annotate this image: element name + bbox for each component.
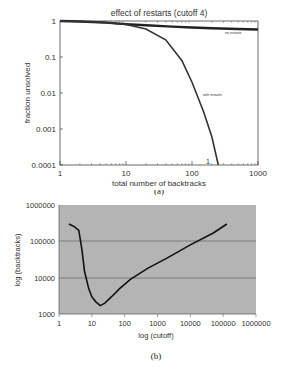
x-tick-label: 10000 <box>180 319 201 328</box>
label-with-restarts: with restarts <box>203 93 222 97</box>
caption-b: (b) <box>151 351 162 361</box>
figure-a: effect of restarts (cutoff 4) 10.10.010.… <box>0 0 285 190</box>
x-tick-label: 10 <box>88 319 96 328</box>
x-tick-label: 1000000 <box>241 319 270 328</box>
chart-b-x-ticks: 1101001000100001000001000000 <box>57 314 271 328</box>
chart-a: effect of restarts (cutoff 4) 10.10.010.… <box>0 0 285 190</box>
y-tick-label: 1000000 <box>26 201 55 210</box>
x-tick-label: 1000 <box>149 319 166 328</box>
chart-b-y-ticks: 1000000100000100001000 <box>26 201 55 319</box>
chart-b-plot-area <box>59 205 256 314</box>
chart-a-plot-frame <box>60 21 258 165</box>
y-tick-label: 1 <box>52 17 57 26</box>
chart-a-y-axis-label: fraction unsolved <box>23 63 32 123</box>
y-tick-label: 1000 <box>38 310 55 319</box>
chart-a-title: effect of restarts (cutoff 4) <box>111 8 208 18</box>
x-tick-label: 100 <box>118 319 131 328</box>
x-tick-label: 100 <box>185 169 199 178</box>
y-tick-label: 100000 <box>30 237 55 246</box>
y-tick-label: 10000 <box>34 274 55 283</box>
chart-b-y-axis-label: log (backtracks) <box>13 233 22 286</box>
y-tick-label: 0.0001 <box>32 161 57 170</box>
chart-a-y-ticks: 10.10.010.0010.0001 <box>32 17 63 170</box>
chart-b: (a) 1000000100000100001000 1101001000100… <box>0 190 285 369</box>
y-tick-label: 0.1 <box>45 53 57 62</box>
figure-b: (a) 1000000100000100001000 1101001000100… <box>0 190 285 369</box>
x-tick-label: 10 <box>122 169 131 178</box>
chart-a-x-axis-label: total number of backtracks <box>112 179 206 188</box>
caption-a: (a) <box>154 190 164 196</box>
x-tick-label: 1000 <box>249 169 267 178</box>
chart-b-x-axis-label: log (cutoff) <box>138 331 174 340</box>
y-tick-label: 0.001 <box>36 125 57 134</box>
x-tick-label: 1 <box>58 169 63 178</box>
x-tick-label: 1 <box>57 319 61 328</box>
label-no-restarts: no restarts <box>225 31 242 35</box>
y-tick-label: 0.01 <box>40 89 56 98</box>
chart-a-x-ticks: 1101001000 <box>58 21 268 178</box>
annotation-one: 1 <box>206 158 210 165</box>
x-tick-label: 100000 <box>211 319 236 328</box>
series-with-restarts-line <box>60 21 218 165</box>
